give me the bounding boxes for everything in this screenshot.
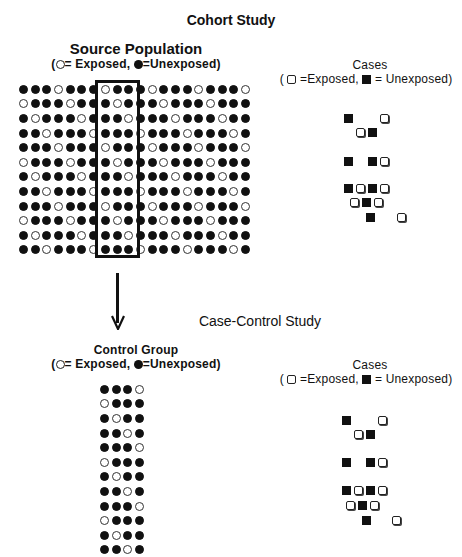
- legend-unexposed-label: =Unexposed): [143, 57, 221, 71]
- unexposed-person-icon: [229, 158, 238, 167]
- unexposed-person-icon: [183, 172, 192, 181]
- exposed-person-icon: [77, 231, 86, 240]
- exposed-case-icon: [380, 114, 389, 123]
- unexposed-person-icon: [77, 129, 86, 138]
- legend-exposed-label: =Exposed,: [300, 372, 359, 386]
- unexposed-person-icon: [206, 129, 215, 138]
- unexposed-case-icon: [362, 198, 371, 207]
- unexposed-case-icon: [368, 184, 377, 193]
- exposed-person-icon: [42, 187, 51, 196]
- cohort-study-title: Cohort Study: [0, 12, 462, 28]
- unexposed-person-icon: [112, 516, 121, 525]
- unexposed-person-icon: [19, 245, 28, 254]
- unexposed-person-icon: [54, 216, 63, 225]
- unexposed-person-icon: [19, 114, 28, 123]
- unexposed-person-icon: [66, 143, 75, 152]
- exposed-person-icon: [123, 487, 132, 496]
- unexposed-person-icon: [66, 114, 75, 123]
- exposed-person-icon: [77, 172, 86, 181]
- exposed-person-icon: [229, 187, 238, 196]
- unexposed-person-icon: [229, 231, 238, 240]
- unexposed-person-icon: [77, 85, 86, 94]
- unexposed-person-icon: [54, 129, 63, 138]
- unexposed-person-icon: [171, 143, 180, 152]
- grid-row: [100, 440, 147, 455]
- unexposed-person-icon: [42, 172, 51, 181]
- unexposed-person-icon: [148, 216, 157, 225]
- exposed-person-icon: [218, 172, 227, 181]
- exposed-person-icon: [183, 245, 192, 254]
- unexposed-person-icon: [171, 245, 180, 254]
- unexposed-person-icon: [66, 202, 75, 211]
- exposed-case-icon: [374, 198, 383, 207]
- unexposed-person-icon: [31, 187, 40, 196]
- unexposed-person-icon: [183, 202, 192, 211]
- exposed-person-icon: [31, 231, 40, 240]
- unexposed-person-icon: [100, 545, 109, 554]
- exposed-person-icon: [54, 202, 63, 211]
- unexposed-person-icon: [183, 158, 192, 167]
- unexposed-person-icon: [148, 245, 157, 254]
- unexposed-person-icon: [54, 187, 63, 196]
- unexposed-person-icon: [194, 216, 203, 225]
- unexposed-person-icon: [42, 143, 51, 152]
- legend-exposed-label: =Exposed,: [300, 72, 359, 86]
- unexposed-person-icon: [194, 172, 203, 181]
- unexposed-person-icon: [171, 202, 180, 211]
- open-square-icon: [287, 375, 296, 384]
- unexposed-person-icon: [183, 99, 192, 108]
- exposed-person-icon: [206, 99, 215, 108]
- case-control-cases-legend: ( =Exposed, = Unexposed): [270, 372, 462, 386]
- unexposed-person-icon: [123, 472, 132, 481]
- exposed-person-icon: [229, 245, 238, 254]
- unexposed-person-icon: [123, 458, 132, 467]
- exposed-person-icon: [171, 231, 180, 240]
- unexposed-person-icon: [135, 429, 144, 438]
- unexposed-person-icon: [159, 187, 168, 196]
- exposed-person-icon: [241, 202, 250, 211]
- exposed-person-icon: [135, 443, 144, 452]
- exposed-person-icon: [159, 158, 168, 167]
- exposed-case-icon: [356, 184, 365, 193]
- unexposed-person-icon: [194, 158, 203, 167]
- unexposed-person-icon: [206, 202, 215, 211]
- unexposed-person-icon: [135, 458, 144, 467]
- unexposed-person-icon: [241, 187, 250, 196]
- unexposed-person-icon: [77, 245, 86, 254]
- unexposed-person-icon: [19, 143, 28, 152]
- exposed-person-icon: [100, 399, 109, 408]
- exposed-case-icon: [392, 516, 401, 525]
- unexposed-person-icon: [100, 531, 109, 540]
- unexposed-person-icon: [148, 114, 157, 123]
- unexposed-person-icon: [42, 216, 51, 225]
- exposed-case-icon: [378, 486, 387, 495]
- exposed-person-icon: [100, 458, 109, 467]
- unexposed-person-icon: [148, 99, 157, 108]
- unexposed-person-icon: [194, 129, 203, 138]
- unexposed-person-icon: [194, 114, 203, 123]
- unexposed-person-icon: [171, 99, 180, 108]
- unexposed-person-icon: [100, 385, 109, 394]
- legend-exposed-label: = Exposed,: [65, 357, 131, 371]
- unexposed-person-icon: [159, 202, 168, 211]
- unexposed-person-icon: [241, 114, 250, 123]
- unexposed-person-icon: [229, 85, 238, 94]
- unexposed-case-icon: [358, 501, 367, 510]
- unexposed-person-icon: [42, 158, 51, 167]
- unexposed-person-icon: [77, 158, 86, 167]
- unexposed-person-icon: [19, 187, 28, 196]
- unexposed-person-icon: [206, 85, 215, 94]
- sampling-selection-box: [95, 80, 140, 258]
- unexposed-person-icon: [77, 99, 86, 108]
- exposed-case-icon: [397, 213, 406, 222]
- grid-row: [100, 470, 147, 485]
- unexposed-person-icon: [19, 231, 28, 240]
- unexposed-person-icon: [77, 187, 86, 196]
- unexposed-person-icon: [229, 202, 238, 211]
- legend-unexposed-label: =Unexposed): [143, 357, 221, 371]
- exposed-case-icon: [380, 184, 389, 193]
- unexposed-case-icon: [366, 486, 375, 495]
- exposed-person-icon: [171, 172, 180, 181]
- unexposed-person-icon: [241, 172, 250, 181]
- unexposed-person-icon: [159, 143, 168, 152]
